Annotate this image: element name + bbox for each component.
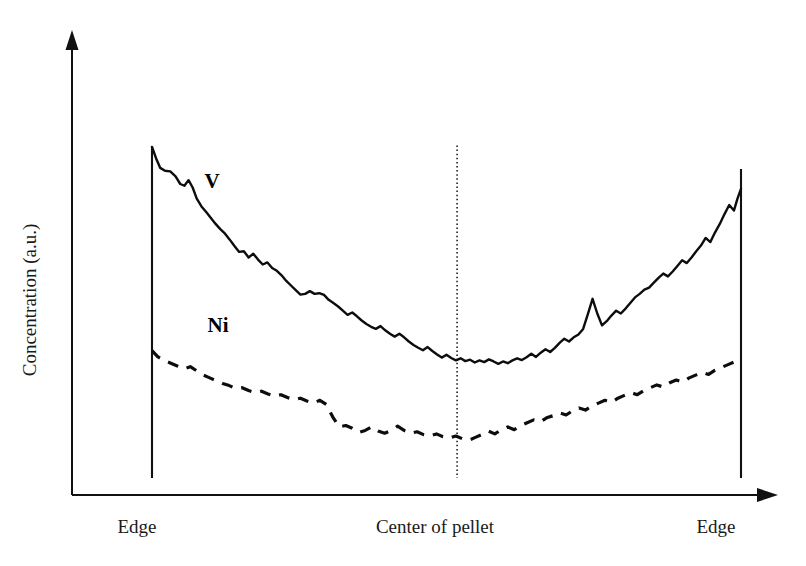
series-label-nickel: Ni [207, 313, 228, 337]
x-tick-label-edge-left: Edge [117, 516, 156, 537]
x-tick-label-edge-right: Edge [696, 516, 735, 537]
y-axis-title: Concentration (a.u.) [19, 224, 41, 376]
chart-background [0, 0, 806, 566]
series-label-vanadium: V [204, 169, 219, 193]
figure-root: V Ni Edge Center of pellet Edge Concentr… [0, 0, 806, 566]
x-tick-label-center-of-pellet: Center of pellet [376, 516, 495, 537]
concentration-profile-chart: V Ni Edge Center of pellet Edge Concentr… [0, 0, 806, 566]
